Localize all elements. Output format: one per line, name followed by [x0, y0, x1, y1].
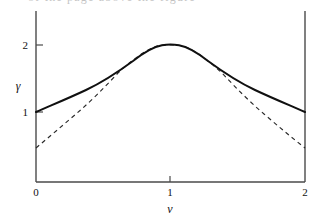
y-tick-label-2: 2	[23, 39, 29, 51]
solid-curve	[36, 45, 305, 112]
x-tick-label-2: 2	[302, 186, 308, 198]
tick-marks	[36, 45, 170, 182]
x-axis-label: ν	[167, 202, 173, 216]
x-tick-label-0: 0	[33, 186, 39, 198]
dashed-curve	[36, 45, 305, 148]
y-axis-label: γ	[16, 79, 21, 93]
y-tick-label-1: 1	[23, 106, 29, 118]
x-tick-label-1: 1	[167, 186, 173, 198]
axis-lines	[36, 11, 305, 182]
plot-figure: 2 1 0 1 2 γ ν	[0, 0, 321, 219]
